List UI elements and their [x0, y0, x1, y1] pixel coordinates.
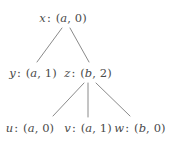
node-pair-z: (b, 2) — [80, 66, 112, 80]
node-pair-second-y: 1 — [45, 66, 52, 80]
node-variable-w: w — [114, 121, 124, 135]
node-pair-w: (b, 0) — [134, 121, 166, 135]
node-pair-first-w: b — [139, 121, 146, 135]
node-pair-second-u: 0 — [42, 121, 49, 135]
tree-node-w: w: (b, 0) — [114, 123, 165, 135]
tree-edge-z-u — [53, 83, 84, 116]
node-pair-first-x: a — [60, 11, 67, 25]
node-pair-first-u: a — [28, 121, 35, 135]
node-variable-u: u — [6, 121, 14, 135]
node-pair-first-z: b — [85, 66, 92, 80]
tree-node-x: x: (a, 0) — [39, 13, 86, 25]
node-pair-first-v: a — [85, 121, 92, 135]
node-pair-first-y: a — [30, 66, 37, 80]
node-pair-second-v: 1 — [100, 121, 107, 135]
node-colon-z: : — [70, 66, 76, 80]
tree-node-u: u: (a, 0) — [6, 123, 54, 135]
node-variable-y: y — [9, 66, 16, 80]
node-pair-second-x: 0 — [75, 11, 82, 25]
tree-diagram: x: (a, 0)y: (a, 1)z: (b, 2)u: (a, 0)v: (… — [0, 0, 171, 150]
node-variable-x: x — [39, 11, 46, 25]
node-colon-x: : — [46, 11, 52, 25]
node-colon-v: : — [71, 121, 77, 135]
node-pair-x: (a, 0) — [56, 11, 87, 25]
node-pair-y: (a, 1) — [26, 66, 57, 80]
tree-edge-x-y — [37, 28, 62, 62]
tree-edge-z-w — [96, 83, 130, 116]
node-colon-w: : — [124, 121, 130, 135]
tree-node-v: v: (a, 1) — [64, 123, 111, 135]
node-variable-v: v — [64, 121, 71, 135]
node-pair-second-z: 2 — [100, 66, 107, 80]
node-colon-y: : — [16, 66, 22, 80]
node-pair-second-w: 0 — [154, 121, 161, 135]
node-pair-v: (a, 1) — [81, 121, 112, 135]
node-pair-u: (a, 0) — [23, 121, 54, 135]
tree-node-y: y: (a, 1) — [9, 68, 56, 80]
tree-edge-x-z — [70, 28, 89, 62]
node-colon-u: : — [13, 121, 19, 135]
tree-node-z: z: (b, 2) — [64, 68, 112, 80]
